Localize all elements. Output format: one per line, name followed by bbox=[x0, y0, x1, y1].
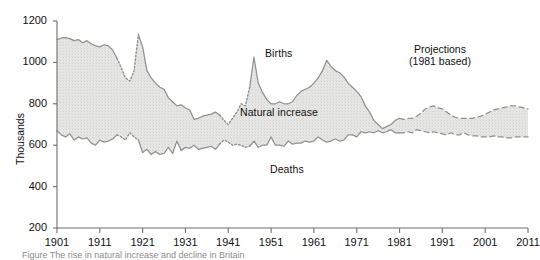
y-axis-tick-label: 600 bbox=[13, 138, 47, 150]
figure-caption: Figure The rise in natural increase and … bbox=[22, 250, 452, 260]
annotation-projections-line2: (1981 based) bbox=[395, 55, 485, 67]
x-axis-tick-label: 1931 bbox=[163, 236, 207, 248]
x-axis-tick-label: 1921 bbox=[121, 236, 165, 248]
y-axis-tick-label: 1000 bbox=[13, 55, 47, 67]
x-axis-tick-label: 2011 bbox=[506, 236, 540, 248]
annotation-deaths: Deaths bbox=[270, 163, 304, 175]
x-axis-tick-label: 1991 bbox=[420, 236, 464, 248]
x-axis-tick-label: 1951 bbox=[249, 236, 293, 248]
x-axis-tick-label: 1911 bbox=[78, 236, 122, 248]
x-axis-tick-label: 1981 bbox=[378, 236, 422, 248]
y-axis-tick-label: 1200 bbox=[13, 14, 47, 26]
y-axis-tick-label: 400 bbox=[13, 180, 47, 192]
x-axis-tick-label: 1971 bbox=[335, 236, 379, 248]
x-axis-tick-label: 1901 bbox=[35, 236, 79, 248]
annotation-births: Births bbox=[265, 47, 292, 59]
y-axis-tick-label: 800 bbox=[13, 97, 47, 109]
x-axis-tick-label: 1961 bbox=[292, 236, 336, 248]
x-axis-tick-label: 2001 bbox=[463, 236, 507, 248]
annotation-natural-increase: Natural increase bbox=[240, 106, 318, 118]
annotation-projections-line1: Projections bbox=[395, 43, 485, 55]
x-axis-tick-label: 1941 bbox=[206, 236, 250, 248]
y-axis-tick-label: 200 bbox=[13, 221, 47, 233]
